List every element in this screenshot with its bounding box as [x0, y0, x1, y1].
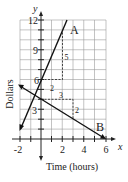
grid	[20, 20, 106, 139]
tick-x-4: 4	[82, 144, 87, 155]
x-axis-title: Time (hours)	[46, 161, 98, 173]
tick-x-6: 6	[104, 144, 109, 155]
y-axis-label: y	[32, 3, 38, 14]
tick-y-6: 6	[34, 75, 39, 86]
line-b-run-label: 3	[59, 91, 63, 100]
x-axis-arrow-icon	[111, 137, 116, 141]
y-axis-arrow-icon	[39, 11, 43, 16]
y-axis-down-arrow-icon	[39, 156, 43, 161]
line-a	[20, 20, 68, 131]
tick-y-9: 9	[33, 45, 38, 56]
line-a-label: A	[70, 23, 79, 37]
line-b-left-arrow-icon	[18, 85, 24, 90]
tick-y-12: 12	[28, 15, 38, 26]
line-b-rise-label: 2	[75, 106, 79, 115]
line-b-label: B	[96, 120, 104, 134]
line-a-run-label: 2	[50, 84, 54, 93]
tick-x-2: 2	[60, 144, 65, 155]
line-chart: 12 9 6 3 -2 2 4 6 x y Time (hours) Dolla…	[0, 0, 128, 182]
y-axis-title: Dollars	[4, 79, 15, 109]
x-axis-label: x	[117, 141, 123, 152]
tick-y-3: 3	[32, 105, 37, 116]
line-a-rise-label: 5	[65, 53, 69, 62]
tick-x-neg2: -2	[14, 144, 22, 155]
line-a-arrow-icon	[20, 124, 25, 131]
